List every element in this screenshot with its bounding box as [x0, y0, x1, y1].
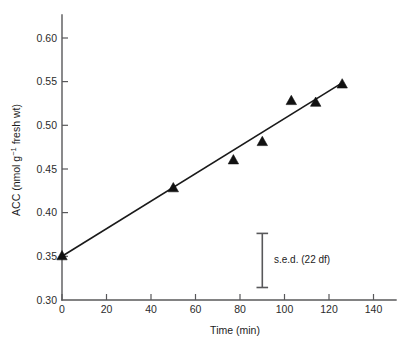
- y-axis-ticks: [62, 38, 68, 256]
- y-axis-title-superscript: −1: [9, 147, 18, 156]
- chart-figure: 0.60 0.55 0.50 0.45 0.40 0.35 0.30 0 20 …: [0, 0, 406, 352]
- regression-line: [62, 83, 343, 257]
- plot-area: 0.60 0.55 0.50 0.45 0.40 0.35 0.30 0 20 …: [0, 0, 406, 352]
- sed-label: s.e.d. (22 df): [274, 254, 330, 265]
- x-tick-label: 120: [320, 303, 338, 315]
- data-point-marker: [228, 155, 238, 164]
- data-point-marker: [168, 183, 178, 192]
- data-point-marker: [286, 95, 296, 104]
- x-tick-label: 20: [101, 303, 113, 315]
- y-tick-label: 0.40: [37, 206, 58, 218]
- y-tick-label: 0.50: [37, 119, 58, 131]
- y-tick-label: 0.60: [37, 32, 58, 44]
- x-tick-label: 60: [190, 303, 202, 315]
- y-tick-label: 0.45: [37, 163, 58, 175]
- y-axis-tick-labels: 0.60 0.55 0.50 0.45 0.40 0.35 0.30: [37, 32, 58, 306]
- x-tick-label: 0: [59, 303, 65, 315]
- x-tick-label: 100: [276, 303, 294, 315]
- y-axis-title-suffix: fresh wt): [10, 104, 22, 147]
- data-point-marker: [257, 136, 267, 145]
- x-axis-title: Time (min): [210, 324, 260, 336]
- y-tick-label: 0.30: [37, 294, 58, 306]
- x-axis-tick-labels: 0 20 40 60 80 100 120 140: [59, 303, 382, 315]
- sed-error-bar: s.e.d. (22 df): [257, 233, 331, 287]
- y-tick-label: 0.35: [37, 250, 58, 262]
- x-axis-ticks: [62, 294, 374, 300]
- y-tick-label: 0.55: [37, 75, 58, 87]
- data-point-marker: [337, 79, 347, 88]
- data-point-marker: [57, 251, 67, 260]
- y-axis-title-prefix: ACC (nmol g: [10, 156, 22, 216]
- x-tick-label: 140: [365, 303, 383, 315]
- y-axis-title: ACC (nmol g−1 fresh wt): [9, 104, 23, 216]
- x-tick-label: 80: [234, 303, 246, 315]
- x-tick-label: 40: [145, 303, 157, 315]
